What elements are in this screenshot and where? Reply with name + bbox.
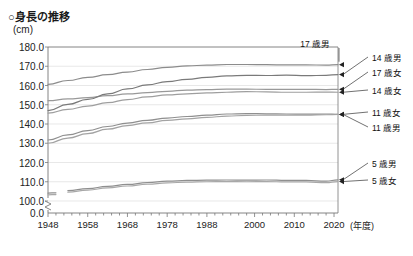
y-axis-tick-label: 130.0 [0, 138, 44, 149]
series-label-s11f: 11 歳女 [372, 106, 401, 118]
series-label-s5f: 5 歳女 [372, 174, 397, 186]
y-axis-tick-label: 150.0 [0, 99, 44, 110]
x-axis-tick-label: 1988 [196, 219, 217, 230]
series-label-s17f: 17 歳女 [372, 66, 402, 78]
chart-screenshot: ○身長の推移 (cm) 180.0170.0160.0150.0140.0130… [0, 0, 413, 256]
x-axis-tick-label: 2010 [284, 219, 305, 230]
y-axis-tick-label: 0.0 [0, 208, 44, 219]
y-axis-tick-label: 120.0 [0, 157, 44, 168]
x-axis-tick-label: 2000 [244, 219, 265, 230]
y-axis-tick-label: 160.0 [0, 80, 44, 91]
x-axis-tick-label: 1968 [117, 219, 138, 230]
x-axis-tick-label: 2020 [323, 219, 344, 230]
x-axis-tick-label: 1978 [157, 219, 178, 230]
y-axis-tick-label: 110.0 [0, 176, 44, 187]
series-label-s14f: 14 歳女 [372, 84, 402, 96]
y-axis-tick-label: 140.0 [0, 119, 44, 130]
series-label-s11m: 11 歳男 [372, 121, 401, 133]
series-label-s5m: 5 歳男 [372, 157, 397, 169]
y-axis-tick-label: 100.0 [0, 196, 44, 207]
x-axis-unit-label: (年度) [350, 219, 374, 232]
x-axis-tick-label: 1948 [37, 219, 58, 230]
y-axis-tick-label: 170.0 [0, 61, 44, 72]
series-label-s14m: 14 歳男 [372, 51, 402, 63]
x-axis-tick-label: 1958 [77, 219, 98, 230]
series-label-s17m: 17 歳男 [0, 37, 330, 49]
